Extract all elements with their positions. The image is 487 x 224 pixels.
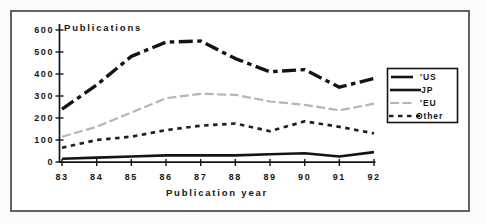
legend: 'US JP 'EU Other xyxy=(388,69,458,123)
x-tick-label: 84 xyxy=(90,172,103,182)
x-tick-label: 88 xyxy=(229,172,242,182)
chart-page: Publications 600 500 400 300 200 100 0 xyxy=(0,0,487,224)
x-tick-label: 83 xyxy=(55,172,68,182)
y-tick-label: 600 xyxy=(34,25,54,35)
x-tick-label: 89 xyxy=(263,172,276,182)
legend-label-other: Other xyxy=(416,111,443,121)
y-tick-label: 100 xyxy=(34,135,54,145)
x-axis-title: Publication year xyxy=(166,187,268,198)
x-tick-label: 86 xyxy=(159,172,172,182)
y-tick-label: 0 xyxy=(47,157,54,167)
x-tick-label: 91 xyxy=(333,172,346,182)
legend-label-us: 'US xyxy=(420,72,437,82)
x-tick-label: 90 xyxy=(298,172,311,182)
legend-label-jp: JP xyxy=(421,85,433,95)
x-tick-label: 87 xyxy=(194,172,207,182)
y-tick-label: 200 xyxy=(34,113,54,123)
y-tick-label: 500 xyxy=(34,47,54,57)
publications-line-chart: Publications 600 500 400 300 200 100 0 xyxy=(0,0,487,224)
chart-title: Publications xyxy=(64,22,142,33)
y-tick-label: 300 xyxy=(34,91,54,101)
x-tick-label: 85 xyxy=(125,172,138,182)
y-tick-label: 400 xyxy=(34,69,54,79)
legend-label-eu: 'EU xyxy=(420,98,437,108)
x-tick-label: 92 xyxy=(367,172,380,182)
